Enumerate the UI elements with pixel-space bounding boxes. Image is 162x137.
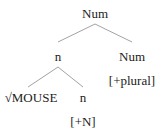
node-n: n	[55, 50, 62, 63]
node-root-mouse: √MOUSE	[5, 91, 58, 104]
node-root-num: Num	[82, 7, 108, 20]
feature-plural: [+plural]	[109, 74, 155, 87]
root-label: MOUSE	[12, 90, 58, 105]
edge-root-right	[95, 24, 132, 42]
node-n-leaf: n	[80, 91, 87, 104]
feature-n: [+N]	[70, 115, 95, 128]
edge-root-left	[58, 24, 95, 42]
node-num: Num	[119, 50, 145, 63]
edge-n-n	[58, 67, 83, 87]
edge-n-root	[28, 67, 58, 87]
